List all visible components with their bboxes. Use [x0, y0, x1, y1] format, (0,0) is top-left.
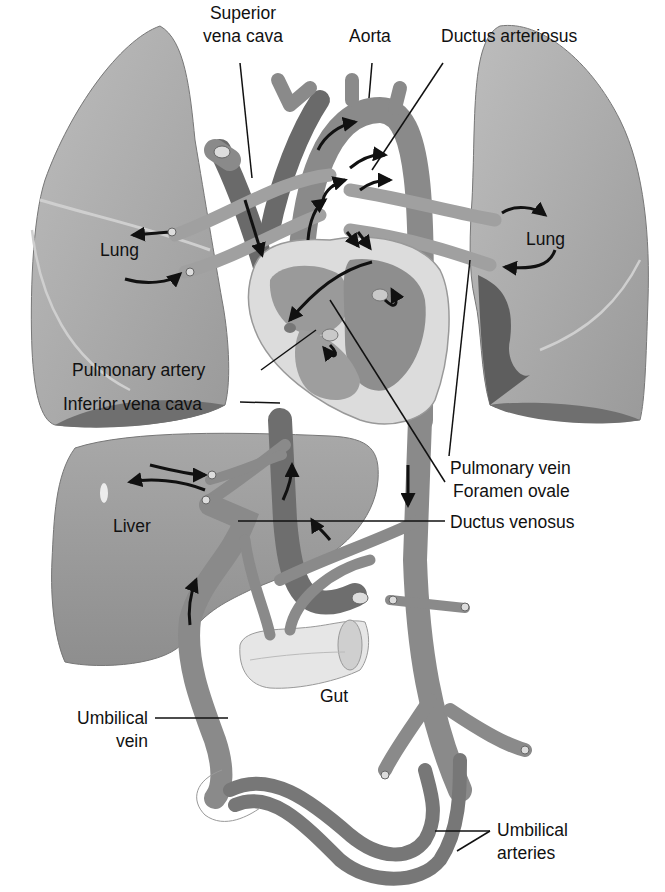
- label-umbilical-vein-line1: Umbilical: [40, 708, 148, 728]
- label-lung-left: Lung: [100, 240, 139, 260]
- label-umbilical-arteries-line2: arteries: [497, 843, 555, 863]
- label-foramen-ovale: Foramen ovale: [453, 481, 570, 501]
- label-superior-vena-cava-line1: Superior: [198, 3, 288, 23]
- label-umbilical-arteries-line1: Umbilical: [497, 820, 568, 840]
- label-umbilical-vein-line2: vein: [40, 731, 148, 751]
- label-pulmonary-vein: Pulmonary vein: [450, 458, 571, 478]
- label-liver: Liver: [113, 516, 151, 536]
- fetal-circulation-diagram: Superior vena cava Aorta Ductus arterios…: [0, 0, 665, 892]
- label-lung-right: Lung: [526, 229, 565, 249]
- label-gut: Gut: [320, 686, 348, 706]
- label-ductus-venosus: Ductus venosus: [450, 512, 575, 532]
- label-ductus-arteriosus: Ductus arteriosus: [441, 26, 577, 46]
- label-inferior-vena-cava: Inferior vena cava: [63, 394, 202, 414]
- diagram-artwork: [0, 0, 665, 892]
- label-pulmonary-artery: Pulmonary artery: [72, 360, 205, 380]
- label-superior-vena-cava-line2: vena cava: [190, 26, 296, 46]
- gut: [240, 620, 369, 688]
- label-aorta: Aorta: [349, 26, 391, 46]
